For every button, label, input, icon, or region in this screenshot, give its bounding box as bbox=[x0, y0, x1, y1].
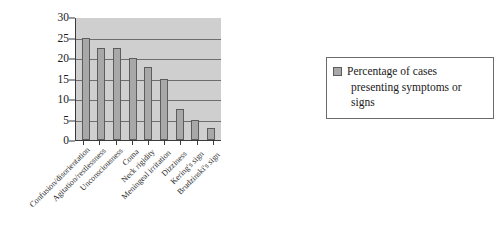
bar bbox=[97, 48, 105, 140]
bar bbox=[191, 120, 199, 141]
legend-label: Percentage of cases presenting symptoms … bbox=[347, 64, 487, 111]
y-axis: 051015202530 bbox=[48, 18, 75, 141]
y-axis-tick-label: 25 bbox=[58, 33, 70, 45]
bar bbox=[144, 67, 152, 140]
bar bbox=[129, 58, 137, 140]
y-axis-tick-label: 20 bbox=[58, 53, 70, 65]
legend-label-line2: presenting symptoms or signs bbox=[347, 80, 487, 111]
y-axis-tick-label: 30 bbox=[58, 12, 70, 24]
bar bbox=[82, 38, 90, 141]
legend-label-line1: Percentage of cases bbox=[347, 65, 437, 77]
bar bbox=[160, 79, 168, 141]
bar-series bbox=[76, 18, 221, 140]
plot-container: 051015202530 Confusion/disorientationAgi… bbox=[0, 0, 300, 246]
x-axis-labels: Confusion/disorientationAgitation/restle… bbox=[0, 140, 300, 246]
bar bbox=[207, 128, 215, 140]
bar-chart-figure: 051015202530 Confusion/disorientationAgi… bbox=[0, 0, 504, 246]
legend-entry: Percentage of cases presenting symptoms … bbox=[333, 64, 487, 111]
bar bbox=[176, 109, 184, 140]
bar bbox=[113, 48, 121, 140]
legend-box: Percentage of cases presenting symptoms … bbox=[326, 57, 494, 119]
y-axis-tick-label: 15 bbox=[58, 74, 70, 86]
y-axis-tick-label: 10 bbox=[58, 94, 70, 106]
legend-swatch-icon bbox=[333, 67, 342, 76]
plot-area bbox=[75, 18, 221, 141]
